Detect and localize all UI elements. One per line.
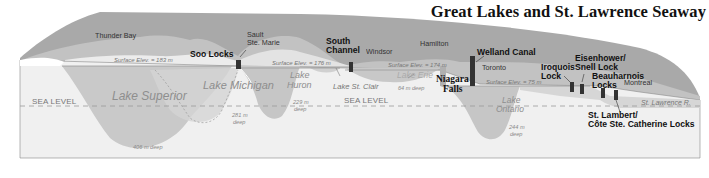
label-lake-huron-1: Lake	[290, 70, 310, 80]
label-soo-locks: Soo Locks	[190, 50, 233, 59]
label-toronto: Toronto	[482, 64, 506, 73]
st-lambert-lock-marker	[614, 90, 618, 100]
label-superior-depth: 406 m deep	[133, 144, 163, 150]
label-huron-depth-1: 229 m	[293, 99, 309, 105]
label-niagara-2: Falls	[443, 84, 463, 94]
label-erie-elevation: Surface Elev. = 174 m	[388, 62, 447, 68]
label-lake-ontario-2: Ontario	[496, 104, 524, 114]
label-iroquois-2: Lock	[541, 72, 561, 81]
label-hamilton: Hamilton	[420, 40, 448, 49]
label-lake-huron-2: Huron	[287, 80, 312, 90]
label-niagara-1: Niagara	[436, 74, 469, 84]
south-channel-lock-marker	[349, 62, 353, 72]
label-huron-depth-2: deep	[294, 106, 306, 112]
label-ontario-elevation: Surface Elev. = 75 m	[486, 79, 541, 85]
label-sault-2: Ste. Marie	[247, 39, 280, 48]
label-windsor: Windsor	[366, 48, 392, 57]
label-sea-level-center: SEA LEVEL	[344, 96, 389, 105]
label-beauharnois-2: Locks	[592, 81, 617, 90]
label-lake-michigan: Lake Michigan	[203, 79, 274, 91]
label-south-channel-2: Channel	[326, 46, 360, 55]
label-lake-erie: Lake Erie	[397, 70, 433, 80]
label-st-lambert-2: Côte Ste. Catherine Locks	[588, 120, 695, 129]
label-welland-canal: Welland Canal	[477, 48, 536, 57]
label-michigan-depth-2: deep	[233, 119, 245, 125]
great-lakes-profile-diagram: Great Lakes and St. Lawrence Seaway Thun…	[0, 0, 709, 178]
eisenhower-lock-marker	[580, 84, 584, 94]
label-michigan-depth-1: 281 m	[232, 112, 248, 118]
label-erie-depth: 64 m deep	[398, 85, 424, 91]
label-lake-superior: Lake Superior	[112, 89, 187, 103]
diagram-title: Great Lakes and St. Lawrence Seaway	[420, 2, 706, 22]
label-st-lawrence-river: St. Lawrence R.	[641, 99, 691, 106]
label-ontario-depth-1: 244 m	[509, 124, 525, 130]
label-ontario-depth-2: deep	[510, 131, 522, 137]
label-thunder-bay: Thunder Bay	[95, 32, 136, 41]
label-sea-level-left: SEA LEVEL	[32, 97, 77, 106]
label-lake-st-clair: Lake St. Clair	[333, 82, 379, 91]
welland-canal-marker	[470, 56, 475, 86]
label-superior-elevation: Surface Elev. = 183 m	[114, 57, 173, 63]
iroquois-lock-marker	[570, 82, 574, 92]
label-michigan-huron-elevation: Surface Elev. = 176 m	[272, 60, 331, 66]
soo-lock-marker	[236, 60, 241, 69]
